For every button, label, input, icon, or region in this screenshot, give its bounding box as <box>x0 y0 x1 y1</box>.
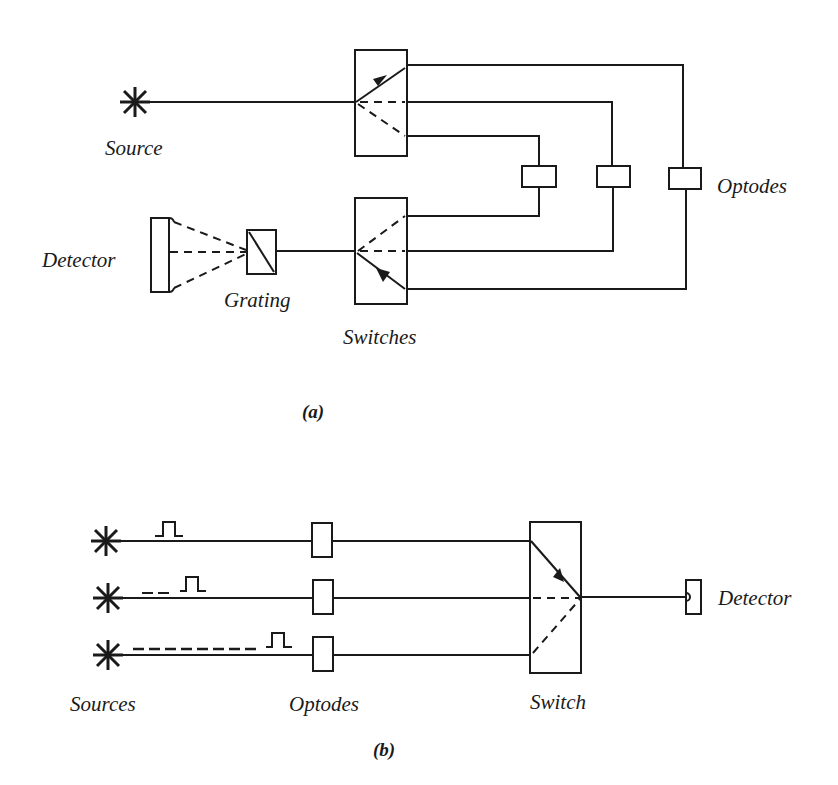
diagram-canvas <box>0 0 838 785</box>
label-source: Source <box>105 138 163 159</box>
label-detector-a: Detector <box>42 250 115 271</box>
label-optodes-b: Optodes <box>289 694 359 715</box>
bottom-switch-arrow-icon <box>376 268 390 282</box>
fiber-optode-1-top <box>407 136 539 166</box>
label-sources: Sources <box>70 694 136 715</box>
label-switches: Switches <box>343 327 417 348</box>
fiber-optode-3-bottom <box>407 189 686 289</box>
source-b-1-star-icon <box>91 526 121 556</box>
label-switch: Switch <box>530 692 586 713</box>
figure-a <box>120 50 701 304</box>
top-switch-dashed-low <box>358 104 405 136</box>
label-grating: Grating <box>224 290 291 311</box>
spectrum-ray-bottom <box>174 254 246 288</box>
top-switch-active-path <box>356 68 405 102</box>
pulse-3-icon <box>266 633 292 647</box>
source-b-2-star-icon <box>93 583 123 613</box>
optode-a-1 <box>522 166 556 187</box>
switch-b-active-path <box>531 541 580 597</box>
detector-b-box <box>686 580 701 614</box>
label-optodes-a: Optodes <box>717 176 787 197</box>
pulse-2-icon <box>180 577 206 591</box>
figure-b <box>91 522 701 673</box>
optode-b-1 <box>312 523 332 557</box>
optode-a-2 <box>597 166 630 187</box>
label-detector-b: Detector <box>718 588 791 609</box>
optode-b-3 <box>313 637 333 671</box>
fiber-optode-2-top <box>407 102 612 166</box>
caption-a: (a) <box>302 402 324 421</box>
fiber-optode-1-bottom <box>407 187 539 216</box>
grating-diagonal <box>249 232 274 272</box>
detector-a-box <box>151 218 169 292</box>
bottom-switch-dashed-high <box>358 216 405 251</box>
optode-b-2 <box>313 580 333 614</box>
optode-a-3 <box>669 168 701 189</box>
switch-b-arrow-icon <box>553 568 564 582</box>
source-star-icon <box>120 87 150 117</box>
switch-b-dashed-low <box>533 599 580 653</box>
spectrum-ray-top <box>174 222 246 250</box>
caption-b: (b) <box>373 740 395 759</box>
fiber-optode-3-top <box>407 65 683 168</box>
pulse-1-icon <box>155 522 183 536</box>
source-b-3-star-icon <box>93 640 123 670</box>
fiber-optode-2-bottom <box>407 187 613 251</box>
